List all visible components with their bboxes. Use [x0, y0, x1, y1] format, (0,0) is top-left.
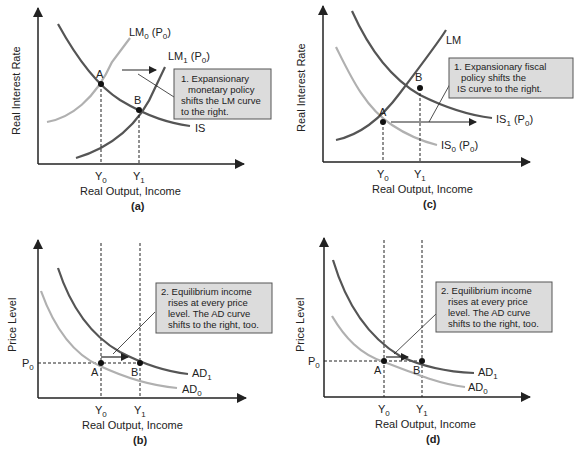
- macro-diagram: Real Interest Rate Real Output, Income (…: [0, 0, 575, 449]
- lm0-label: LM0 (P0): [129, 26, 171, 41]
- y-axis-label: Price Level: [6, 298, 18, 352]
- point-b-label: B: [131, 366, 138, 378]
- point-a-label: A: [91, 366, 99, 378]
- panel-b: Price Level Real Output, Income (b) A B …: [6, 240, 272, 446]
- p0-tick-label: P0: [308, 355, 320, 370]
- callout-leader: [429, 84, 450, 122]
- point-b-label: B: [413, 364, 420, 376]
- y-axis-label: Real Interest Rate: [10, 46, 22, 135]
- ad1-label: AD1: [192, 367, 212, 382]
- lm0-curve: [47, 38, 130, 122]
- is1-label: IS1 (P0): [496, 113, 533, 128]
- svg-text:rises at every price: rises at every price: [448, 296, 528, 307]
- y1-tick-label: Y1: [416, 403, 428, 418]
- callout-box: 1. Expansionary fiscal policy shifts the…: [449, 58, 573, 98]
- svg-text:policy shifts the: policy shifts the: [461, 72, 526, 83]
- svg-text:IS curve to the right.: IS curve to the right.: [457, 83, 542, 94]
- point-a-label: A: [379, 106, 387, 118]
- callout-box: 2. Equilibrium income rises at every pri…: [436, 282, 552, 332]
- y0-tick-label: Y0: [95, 170, 107, 185]
- x-axis-label: Real Output, Income: [80, 185, 181, 197]
- svg-text:1. Expansionary: 1. Expansionary: [181, 73, 249, 84]
- y-axis-label: Real Interest Rate: [295, 43, 307, 132]
- callout-box: 2. Equilibrium income rises at every pri…: [156, 283, 272, 333]
- y0-tick-label: Y0: [95, 404, 107, 419]
- ad1-label: AD1: [478, 366, 498, 381]
- lm1-label: LM1 (P0): [168, 50, 210, 65]
- point-a-label: A: [374, 364, 382, 376]
- point-a: [381, 358, 387, 364]
- ad0-label: AD0: [468, 381, 488, 396]
- lm-label: LM: [446, 34, 461, 46]
- callout-leader: [394, 314, 436, 354]
- callout-box: 1. Expansionary monetary policy shifts t…: [174, 69, 271, 119]
- svg-text:2. Equilibrium income: 2. Equilibrium income: [441, 285, 532, 296]
- y1-tick-label: Y1: [134, 404, 146, 419]
- ad0-label: AD0: [182, 383, 202, 398]
- panel-d: Price Level Real Output, Income (d) A B …: [294, 238, 552, 445]
- point-b: [417, 85, 423, 91]
- svg-text:monetary policy: monetary policy: [188, 84, 255, 95]
- svg-text:shifts the LM curve: shifts the LM curve: [181, 95, 261, 106]
- point-a: [98, 81, 104, 87]
- panel-a: Real Interest Rate Real Output, Income (…: [10, 8, 271, 212]
- is-label: IS: [195, 122, 205, 134]
- svg-text:level. The AD curve: level. The AD curve: [168, 308, 250, 319]
- panel-c: Real Interest Rate Real Output, Income (…: [295, 6, 573, 210]
- panel-caption: (a): [131, 200, 145, 212]
- y0-tick-label: Y0: [378, 403, 390, 418]
- y1-tick-label: Y1: [414, 168, 426, 183]
- y-axis-label: Price Level: [294, 298, 306, 352]
- point-a: [380, 119, 386, 125]
- x-axis-label: Real Output, Income: [375, 418, 476, 430]
- callout-leader: [138, 74, 174, 97]
- svg-text:1. Expansionary fiscal: 1. Expansionary fiscal: [454, 61, 546, 72]
- x-axis-label: Real Output, Income: [82, 419, 183, 431]
- p0-tick-label: P0: [22, 357, 34, 372]
- panel-caption: (d): [426, 433, 440, 445]
- lm1-curve: [76, 67, 165, 158]
- svg-text:level. The AD curve: level. The AD curve: [448, 307, 530, 318]
- point-a-label: A: [96, 68, 104, 80]
- svg-text:2. Equilibrium income: 2. Equilibrium income: [161, 286, 252, 297]
- point-b-label: B: [415, 71, 422, 83]
- point-b-label: B: [134, 94, 141, 106]
- callout-leader: [113, 312, 155, 354]
- panel-caption: (c): [423, 198, 437, 210]
- panel-caption: (b): [133, 434, 147, 446]
- svg-text:shifts to the right, too.: shifts to the right, too.: [448, 318, 539, 329]
- is-curve: [58, 24, 190, 126]
- point-a: [98, 360, 104, 366]
- is0-label: IS0 (P0): [441, 139, 478, 154]
- point-b: [136, 107, 142, 113]
- svg-text:to the right.: to the right.: [181, 106, 229, 117]
- y1-tick-label: Y1: [133, 170, 145, 185]
- svg-text:rises at every price: rises at every price: [168, 297, 248, 308]
- y0-tick-label: Y0: [377, 168, 389, 183]
- x-axis-label: Real Output, Income: [372, 183, 473, 195]
- svg-text:shifts to the right, too.: shifts to the right, too.: [168, 319, 259, 330]
